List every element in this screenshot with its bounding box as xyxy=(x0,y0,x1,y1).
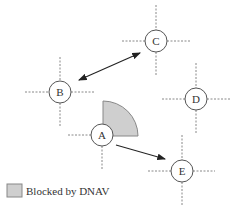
node-a-label: A xyxy=(98,129,106,141)
legend-label: Blocked by DNAV xyxy=(26,185,110,197)
dnav-diagram: A B C D E Blocked by DNAV xyxy=(0,0,241,216)
edge-b-c-bidirectional xyxy=(79,53,140,80)
legend-swatch xyxy=(7,184,22,197)
edge-a-e-arrow xyxy=(116,145,165,159)
node-b-label: B xyxy=(56,86,63,98)
node-c-label: C xyxy=(152,35,159,47)
node-d-label: D xyxy=(192,93,200,105)
node-e-label: E xyxy=(179,165,186,177)
